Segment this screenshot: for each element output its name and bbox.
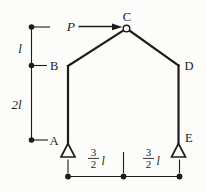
hinge-circle-c — [123, 25, 130, 32]
node-label-b: B — [50, 59, 58, 73]
dimension-label-2l: 2l — [11, 97, 22, 112]
node-label-d: D — [185, 59, 194, 73]
frame-structure-diagram: l 2l P C B D A E 3 2 l — [0, 0, 206, 192]
dimension-label-l: l — [18, 41, 22, 56]
dimension-dot-middle — [121, 174, 127, 180]
node-label-c: C — [123, 10, 131, 24]
node-label-a: A — [50, 134, 59, 148]
fraction-numerator: 3 — [91, 146, 97, 158]
fraction-denominator: 2 — [146, 158, 152, 170]
dimension-dot-b-level — [29, 63, 35, 69]
load-label-p: P — [66, 19, 75, 34]
fraction-numerator: 3 — [146, 146, 152, 158]
dimension-dot-top — [29, 24, 35, 30]
dimension-dot-right — [177, 174, 183, 180]
node-label-e: E — [185, 131, 193, 145]
dimension-dot-a-level — [29, 137, 35, 143]
fraction-denominator: 2 — [91, 158, 97, 170]
dimension-dot-left — [65, 174, 71, 180]
